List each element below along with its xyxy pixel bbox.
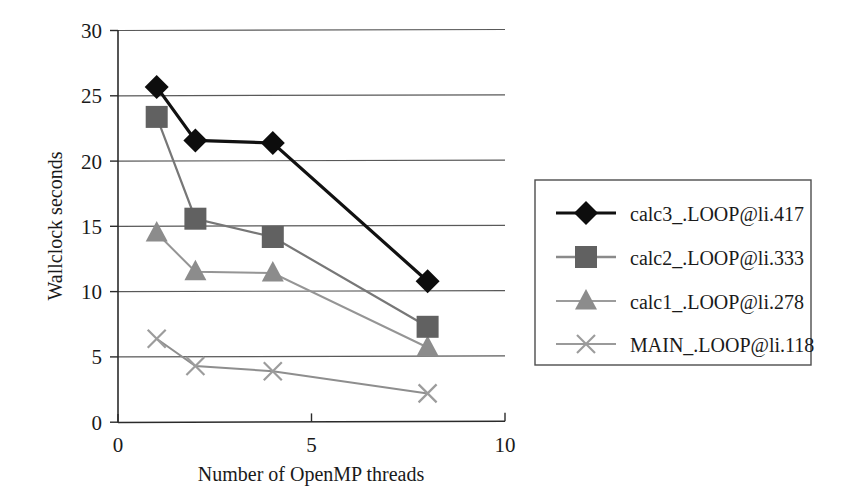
y-tick-label: 30 (81, 19, 102, 43)
chart-figure: 30 25 20 15 10 5 0 0 5 10 Number of Open… (0, 0, 851, 499)
square-marker-icon (575, 246, 597, 268)
y-tick-label: 15 (81, 215, 102, 239)
y-tick-label: 10 (81, 280, 102, 304)
x-tick-label: 10 (495, 433, 516, 457)
x-tick-labels: 0 5 10 (113, 433, 516, 457)
y-tick-label: 0 (92, 411, 103, 435)
y-axis-title: Wallclock seconds (44, 151, 66, 300)
x-axis-title: Number of OpenMP threads (198, 463, 425, 486)
y-tick-label: 20 (81, 150, 102, 174)
chart-svg: 30 25 20 15 10 5 0 0 5 10 Number of Open… (0, 0, 851, 499)
y-tick-label: 5 (92, 345, 103, 369)
legend-label: calc1_.LOOP@li.278 (630, 291, 804, 314)
legend-label: calc2_.LOOP@li.333 (630, 247, 804, 270)
legend-label: MAIN_.LOOP@li.118 (630, 334, 814, 357)
legend-label: calc3_.LOOP@li.417 (630, 203, 804, 226)
y-tick-labels: 30 25 20 15 10 5 0 (81, 19, 102, 435)
chart-legend: calc3_.LOOP@li.417 calc2_.LOOP@li.333 ca… (535, 180, 814, 365)
x-tick-label: 5 (306, 433, 317, 457)
y-tick-marks (110, 31, 118, 423)
y-tick-label: 25 (81, 84, 102, 108)
x-tick-label: 0 (113, 433, 124, 457)
legend-entry-calc2[interactable]: calc2_.LOOP@li.333 (556, 246, 804, 270)
